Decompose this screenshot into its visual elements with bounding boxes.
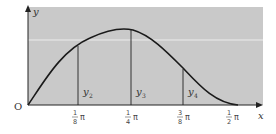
svg-text:π: π [234,113,239,122]
svg-text:π: π [80,113,85,122]
svg-text:8: 8 [73,118,77,126]
svg-text:3: 3 [178,109,182,117]
tick-label-1-2-pi: 1 2 π [226,109,239,126]
svg-text:2: 2 [89,92,93,99]
svg-text:y: y [135,86,142,97]
tick-label-1-8-pi: 1 8 π [72,109,85,126]
svg-text:1: 1 [73,109,77,117]
shaded-region [28,7,263,105]
svg-text:y: y [82,86,89,97]
svg-text:π: π [133,113,138,122]
tick-label-3-8-pi: 3 8 π [177,109,190,126]
diagram-canvas: y x O y 2 y 3 y 4 1 8 π 1 4 π 3 8 π 1 2 … [0,0,276,134]
svg-text:4: 4 [126,118,130,126]
svg-text:2: 2 [227,118,231,126]
origin-label: O [14,101,22,112]
svg-text:1: 1 [126,109,130,117]
y-axis-label: y [32,6,39,17]
svg-text:4: 4 [194,92,198,99]
x-axis-label: x [258,110,264,121]
svg-text:3: 3 [142,92,146,99]
svg-text:π: π [185,113,190,122]
svg-text:8: 8 [178,118,182,126]
svg-text:1: 1 [227,109,231,117]
tick-label-1-4-pi: 1 4 π [125,109,138,126]
svg-text:y: y [187,86,194,97]
